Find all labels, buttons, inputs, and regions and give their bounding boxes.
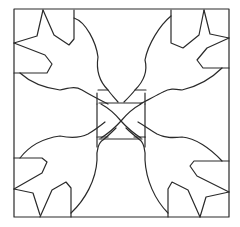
center-square-with-x <box>97 103 145 139</box>
bottom-left-bird <box>14 122 116 217</box>
top-right-bird <box>124 10 229 104</box>
quilt-block-drawing: Quilt block line-art pattern <box>0 0 240 227</box>
square-border <box>14 9 229 217</box>
top-left-bird <box>14 10 118 104</box>
bottom-right-bird <box>126 122 229 217</box>
